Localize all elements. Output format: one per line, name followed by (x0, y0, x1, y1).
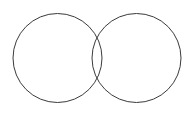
venn-diagram (0, 0, 196, 113)
diagram-canvas (0, 0, 196, 113)
diagram-background (0, 0, 196, 113)
